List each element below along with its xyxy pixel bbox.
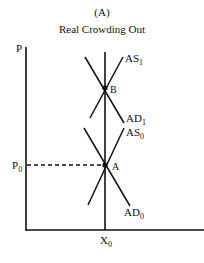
point-a-label: A bbox=[112, 161, 120, 172]
ad0-curve bbox=[84, 128, 130, 206]
ad0-label: AD0 bbox=[124, 206, 144, 221]
crowding-out-diagram: P AS1 B AD1 AS0 A AD0 P0 X0 bbox=[0, 0, 204, 263]
as0-label: AS0 bbox=[126, 126, 144, 141]
point-a bbox=[102, 162, 107, 167]
point-b-label: B bbox=[110, 84, 117, 95]
y-axis-label: P bbox=[16, 42, 22, 54]
as1-label: AS1 bbox=[125, 52, 143, 67]
ad1-label: AD1 bbox=[126, 112, 146, 127]
point-b bbox=[102, 85, 107, 90]
p0-label: P0 bbox=[12, 159, 22, 174]
x0-label: X0 bbox=[100, 234, 112, 249]
